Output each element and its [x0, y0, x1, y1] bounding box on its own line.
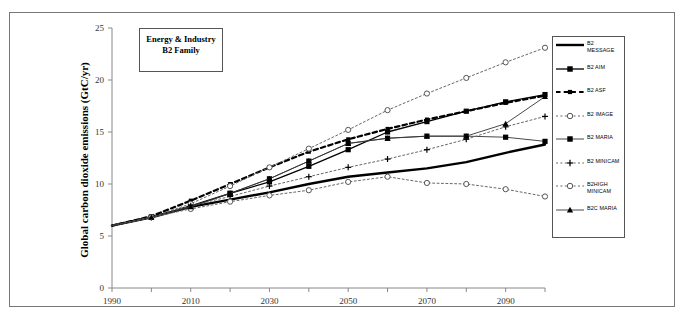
x-tick-label: 2070 [418, 296, 437, 306]
y-tick-label: 10 [95, 179, 105, 189]
x-tick-label: 1990 [103, 296, 122, 306]
legend-item: B2 IMAGE [553, 108, 624, 132]
legend-label-line2: MINICAM [587, 188, 611, 195]
legend-label: B2 MINICAM [587, 155, 619, 165]
y-axis-title: Global carbon dioxide emissions (GtC/yr) [78, 62, 91, 258]
legend-label-line1: B2C MARIA [587, 205, 617, 212]
legend-item: B2C MARIA [553, 202, 624, 226]
legend-item: B2 ASF [553, 84, 624, 108]
legend-symbol-plus-icon [553, 155, 587, 179]
chart-series [112, 174, 548, 225]
legend-label-line1: B2 [587, 40, 614, 47]
legend-label-line2: MESSAGE [587, 47, 614, 54]
callout-line-1: Energy & Industry [146, 35, 216, 44]
y-tick-label: 0 [100, 283, 105, 293]
x-tick-label: 2010 [182, 296, 201, 306]
legend-symbol-circle-open-icon [553, 108, 587, 132]
chart-legend: B2MESSAGEB2 AIMB2 ASFB2 IMAGEB2 MARIAB2 … [552, 36, 625, 238]
legend-item: B2 MINICAM [553, 155, 624, 179]
x-tick-label: 2030 [260, 296, 279, 306]
legend-item: B2 AIM [553, 61, 624, 85]
legend-label-line1: B2 MARIA [587, 134, 613, 141]
legend-label: B2 IMAGE [587, 108, 613, 118]
legend-label-line1: B2 ASF [587, 87, 606, 94]
y-tick-label: 5 [100, 231, 105, 241]
legend-symbol-none-icon [553, 37, 587, 61]
chart-series [112, 144, 545, 225]
y-tick-label: 15 [95, 127, 105, 137]
legend-item: B2HIGHMINICAM [553, 178, 624, 202]
legend-label-line1: B2HIGH [587, 181, 611, 188]
x-tick-label: 2090 [497, 296, 516, 306]
legend-symbol-triangle-icon [553, 202, 587, 226]
callout-line-2: B2 Family [146, 46, 216, 55]
chart-callout-box: Energy & Industry B2 Family [139, 28, 223, 72]
y-tick-label: 20 [95, 75, 105, 85]
chart-series-layer [112, 45, 548, 225]
legend-symbol-circle-open-icon [553, 178, 587, 202]
legend-label: B2C MARIA [587, 202, 617, 212]
legend-symbol-square-icon [553, 131, 587, 155]
legend-label: B2HIGHMINICAM [587, 178, 611, 195]
legend-label-line1: B2 AIM [587, 64, 605, 71]
legend-item: B2 MARIA [553, 131, 624, 155]
legend-label: B2 MARIA [587, 131, 613, 141]
legend-label: B2MESSAGE [587, 37, 614, 54]
legend-label: B2 ASF [587, 84, 606, 94]
x-tick-label: 2050 [339, 296, 358, 306]
legend-label: B2 AIM [587, 61, 605, 71]
legend-symbol-square-small-icon [553, 84, 587, 108]
legend-symbol-square-icon [553, 61, 587, 85]
y-tick-label: 25 [95, 23, 105, 33]
chart-series [112, 45, 548, 225]
legend-label-line1: B2 IMAGE [587, 111, 613, 118]
legend-label-line1: B2 MINICAM [587, 158, 619, 165]
legend-item: B2MESSAGE [553, 37, 624, 61]
